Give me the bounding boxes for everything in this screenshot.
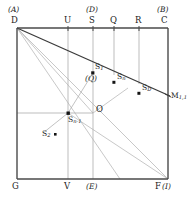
point-label-Sn: Sn bbox=[117, 73, 125, 81]
ray-D-to-O bbox=[17, 28, 93, 113]
corner-label-D: D bbox=[11, 16, 18, 25]
point-label-M: M1,1 bbox=[171, 92, 187, 100]
corner-label-F: F bbox=[155, 182, 161, 191]
bottom-mark-label-E-alt: (E) bbox=[86, 183, 97, 191]
ray-D-to-F bbox=[17, 28, 168, 179]
figure-canvas bbox=[0, 0, 187, 200]
point-label-S1-alt: (Q) bbox=[85, 75, 97, 83]
point-label-S1: S1 bbox=[95, 63, 103, 71]
point-dot-Sn bbox=[112, 81, 115, 84]
corner-label-G: G bbox=[12, 182, 19, 191]
point-label-O: O bbox=[96, 105, 103, 114]
point-label-M-sub: 1,1 bbox=[179, 94, 187, 100]
top-mark-label-S: S bbox=[89, 16, 95, 25]
corner-label-D-alt: (A) bbox=[8, 6, 19, 14]
point-label-M-base: M bbox=[171, 91, 179, 100]
point-label-S1-sub: 1 bbox=[100, 65, 103, 71]
point-label-Sn1-sub: n-1 bbox=[73, 118, 81, 124]
bottom-mark-label-V: V bbox=[64, 182, 70, 191]
point-label-Sn1: Sn-1 bbox=[68, 116, 82, 124]
corner-label-C-alt: (B) bbox=[157, 6, 168, 14]
top-mark-label-R: R bbox=[135, 16, 141, 25]
point-dot-S2 bbox=[54, 133, 57, 136]
point-label-S2: S2 bbox=[42, 130, 50, 138]
point-dot-SD bbox=[137, 92, 140, 95]
grid-verticals bbox=[68, 28, 139, 179]
top-mark-label-U: U bbox=[64, 16, 71, 25]
construction-rays bbox=[17, 28, 168, 179]
top-mark-label-S-alt: (D) bbox=[86, 6, 98, 14]
point-label-S2-sub: 2 bbox=[47, 132, 50, 138]
geometric-figure: (A) D U (D) S Q R (B) C S1 (Q) Sn SD M1,… bbox=[0, 0, 187, 200]
corner-label-C: C bbox=[161, 16, 168, 25]
point-label-Sn-sub: n bbox=[122, 75, 125, 81]
corner-label-F-alt: (I) bbox=[162, 183, 171, 191]
ray-Sn1-to-F bbox=[68, 113, 168, 179]
point-label-SD: SD bbox=[142, 84, 151, 92]
top-mark-label-Q: Q bbox=[110, 16, 117, 25]
point-label-SD-sub: D bbox=[147, 86, 151, 92]
